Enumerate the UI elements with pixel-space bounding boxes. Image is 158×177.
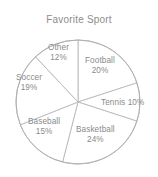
pie-label-name-baseball: Baseball bbox=[28, 117, 60, 127]
pie-label-baseball: Baseball15% bbox=[28, 117, 60, 136]
pie-label-percent-other: 12% bbox=[48, 53, 69, 63]
pie-label-percent-football: 20% bbox=[85, 66, 115, 76]
pie-label-name-football: Football bbox=[85, 56, 115, 66]
pie-label-name-other: Other bbox=[48, 43, 69, 53]
pie-label-football: Football20% bbox=[85, 56, 115, 75]
pie-label-name-soccer: Soccer bbox=[16, 73, 42, 83]
pie-label-other: Other12% bbox=[48, 43, 69, 62]
pie-label-percent-soccer: 19% bbox=[16, 83, 42, 93]
pie-label-basketball: Basketball24% bbox=[76, 125, 115, 144]
pie-label-percent-basketball: 24% bbox=[76, 135, 115, 145]
pie-label-percent-baseball: 15% bbox=[28, 127, 60, 137]
pie-label-tennis: Tennis 10% bbox=[101, 98, 144, 108]
pie-label-name-basketball: Basketball bbox=[76, 125, 115, 135]
pie-label-soccer: Soccer19% bbox=[16, 73, 42, 92]
pie-label-percent-tennis: 10% bbox=[125, 98, 144, 107]
pie-label-name-tennis: Tennis bbox=[101, 98, 125, 107]
pie-chart-figure: Favorite Sport Football20%Tennis 10%Bask… bbox=[0, 0, 158, 177]
